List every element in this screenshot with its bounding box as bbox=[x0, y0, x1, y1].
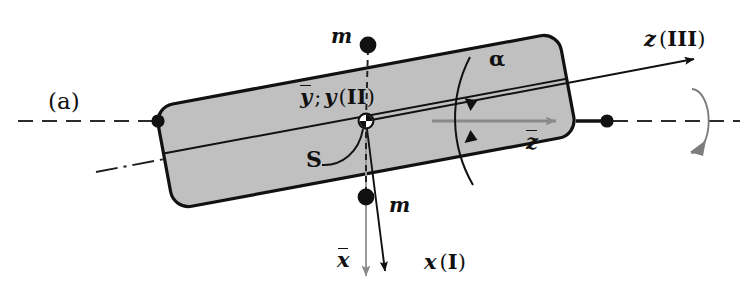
y-close-paren: ) bbox=[367, 85, 375, 109]
right-bearing-dot bbox=[600, 114, 613, 127]
z-frame-index: III bbox=[667, 26, 697, 51]
x-bar-symbol-wrap: x bbox=[337, 249, 350, 271]
z-open-paren: ( bbox=[659, 27, 667, 51]
center-of-mass-marker bbox=[359, 114, 374, 129]
z-bar-axis-label: z bbox=[526, 131, 538, 153]
y-body-symbol: y bbox=[324, 84, 336, 109]
z-body-symbol: z bbox=[644, 26, 656, 51]
y-axes-separator: ; bbox=[314, 85, 321, 109]
mass-bottom-label: m bbox=[389, 195, 410, 215]
x-body-axis-label: x(I) bbox=[424, 251, 466, 273]
mass-top-dot bbox=[360, 37, 377, 54]
x-bar-symbol: x bbox=[337, 247, 350, 272]
z-bar-overline bbox=[526, 130, 536, 132]
x-frame-index: I bbox=[448, 249, 458, 274]
y-bar-overline bbox=[300, 85, 310, 87]
x-body-symbol: x bbox=[424, 249, 437, 274]
z-close-paren: ) bbox=[697, 27, 705, 51]
y-open-paren: ( bbox=[338, 85, 346, 109]
y-bar-symbol-wrap: y bbox=[300, 86, 312, 108]
angle-alpha-label: α bbox=[489, 48, 505, 69]
diagram-canvas bbox=[0, 0, 753, 300]
z-body-axis-label: z(III) bbox=[644, 28, 705, 50]
figure-root: (a) m m y;y(II) S α z(III) z x x(I) bbox=[0, 0, 753, 300]
x-close-paren: ) bbox=[458, 250, 466, 274]
z-bar-symbol: z bbox=[526, 129, 538, 154]
z-bar-symbol-wrap: z bbox=[526, 131, 538, 153]
rotation-indicator bbox=[690, 89, 709, 156]
center-of-mass-label: S bbox=[306, 148, 322, 170]
left-bearing-dot bbox=[151, 114, 164, 127]
x-bar-overline bbox=[338, 248, 349, 250]
mass-bottom-dot bbox=[358, 189, 375, 206]
x-open-paren: ( bbox=[440, 250, 448, 274]
mass-top-label: m bbox=[331, 26, 352, 46]
y-bar-symbol: y bbox=[300, 84, 312, 109]
figure-caption-label: (a) bbox=[48, 90, 80, 113]
y-frame-index: II bbox=[347, 84, 367, 109]
x-bar-axis-label: x bbox=[337, 249, 350, 271]
y-axes-label: y;y(II) bbox=[300, 86, 375, 108]
